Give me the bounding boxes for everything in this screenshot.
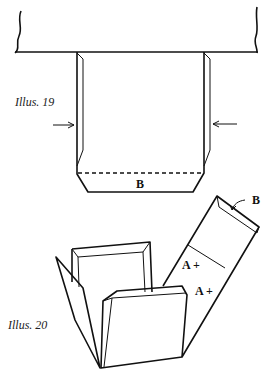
illus-20-diagram: B A + A + Illus. 20	[7, 193, 260, 368]
label-b-fold: B	[136, 177, 144, 191]
illus-19-diagram: Illus. 19 B	[14, 7, 258, 192]
front-panel-top-fold	[103, 293, 186, 301]
folded-sheet-outline	[77, 52, 204, 192]
label-b-strip: B	[252, 193, 260, 207]
front-panel-side-fold	[104, 298, 112, 367]
caption-illus-19: Illus. 19	[14, 95, 54, 109]
label-a-upper: A +	[182, 258, 200, 272]
left-fold-strip	[77, 53, 83, 166]
label-a-lower: A +	[195, 284, 213, 298]
break-line-right	[255, 7, 257, 53]
left-flap	[56, 257, 100, 368]
back-panel-inner-fold	[72, 242, 150, 257]
back-panel-inner-right	[143, 252, 145, 292]
right-fold-strip	[204, 53, 210, 166]
illustration-canvas: Illus. 19 B B A + A + Illus. 20	[0, 0, 272, 378]
caption-illus-20: Illus. 20	[7, 318, 47, 332]
break-line-left	[15, 11, 21, 53]
long-strip	[163, 196, 259, 357]
back-panel-outline	[72, 242, 152, 292]
